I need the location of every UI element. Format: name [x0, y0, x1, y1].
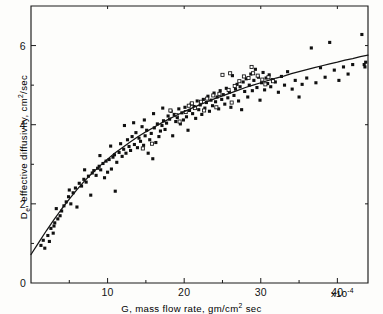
data-point [83, 168, 86, 171]
data-point [301, 83, 304, 86]
data-point [185, 115, 188, 118]
data-point [305, 76, 308, 79]
data-point [43, 247, 46, 250]
x-tick-label: 30 [255, 286, 267, 298]
data-point [232, 94, 235, 97]
data-points-group [39, 33, 367, 250]
data-point [53, 221, 56, 224]
axes-group [31, 6, 368, 283]
y-axis-label-exponent: 2 [17, 94, 24, 98]
data-point [134, 131, 137, 134]
data-point [56, 217, 59, 220]
data-point [139, 140, 142, 143]
data-point [95, 174, 98, 177]
data-point [136, 146, 139, 149]
data-point [229, 72, 232, 75]
data-point [233, 84, 236, 87]
scatter-plot: 010203040246 [0, 0, 383, 314]
y-axis-label-subscript: e [24, 208, 31, 212]
data-point [174, 120, 177, 123]
data-point [106, 171, 109, 174]
data-point [132, 121, 135, 124]
data-point [141, 147, 144, 150]
data-point [59, 214, 62, 217]
data-point [186, 129, 189, 132]
data-point [211, 104, 214, 107]
data-point [229, 106, 232, 109]
data-point [247, 76, 250, 79]
data-point [254, 68, 257, 71]
data-point [129, 149, 132, 152]
data-point [46, 234, 49, 237]
data-point [342, 65, 345, 68]
data-point [291, 88, 294, 91]
data-point [39, 244, 42, 247]
data-point [271, 80, 274, 83]
data-point [147, 152, 150, 155]
data-point [364, 61, 367, 64]
data-point [264, 83, 267, 86]
data-point [239, 85, 242, 88]
x-exponent-annotation: x10-4 [331, 283, 354, 301]
data-point [52, 232, 55, 235]
data-point [151, 157, 154, 160]
data-point [208, 110, 211, 113]
x-exponent-power: -4 [347, 287, 354, 294]
data-point [214, 100, 217, 103]
data-point [89, 194, 92, 197]
y-axis-label-text: De, effective diffusivity, cm2/sec [18, 75, 29, 219]
data-point [183, 106, 186, 109]
data-point [218, 92, 221, 95]
data-point [69, 202, 72, 205]
data-point [150, 142, 153, 145]
data-point [328, 41, 331, 44]
data-point [169, 109, 172, 112]
data-point [277, 91, 280, 94]
data-point [74, 186, 77, 189]
data-point [119, 142, 122, 145]
x-tick-label: 20 [178, 286, 190, 298]
y-axis-label-symbol: D [18, 212, 29, 219]
data-point [178, 120, 181, 123]
data-point [294, 79, 297, 82]
data-point [310, 46, 313, 49]
data-point [351, 63, 354, 66]
data-point [182, 118, 185, 121]
data-point [109, 145, 112, 148]
data-point [203, 109, 206, 112]
figure-root: 010203040246 G, mass flow rate, gm/cm2 s… [0, 0, 383, 314]
data-point [177, 107, 180, 110]
data-point [200, 113, 203, 116]
data-point [242, 75, 245, 78]
data-point [226, 96, 229, 99]
data-point [52, 224, 55, 227]
data-point [167, 114, 170, 117]
data-point [144, 134, 147, 137]
data-point [250, 65, 253, 68]
data-point [78, 182, 81, 185]
data-point [240, 108, 243, 111]
data-point [127, 145, 130, 148]
data-point [55, 207, 58, 210]
data-point [160, 124, 163, 127]
data-point [199, 100, 202, 103]
data-point [197, 108, 200, 111]
data-point [143, 118, 146, 121]
data-point [98, 154, 101, 157]
data-point [148, 138, 151, 141]
data-point [223, 103, 226, 106]
x-axis-label: G, mass flow rate, gm/cm2 sec [0, 298, 383, 314]
tick-label-group: 010203040246 [20, 40, 344, 298]
data-point [42, 239, 45, 242]
data-point [159, 130, 162, 133]
data-point [286, 70, 289, 73]
axis-box [31, 6, 368, 283]
data-point [171, 134, 174, 137]
x-exponent-mult: x10 [331, 288, 347, 299]
data-point [75, 205, 78, 208]
data-point [165, 122, 168, 125]
data-point [142, 144, 145, 147]
data-point [314, 81, 317, 84]
data-point [347, 73, 350, 76]
data-point [263, 88, 266, 91]
